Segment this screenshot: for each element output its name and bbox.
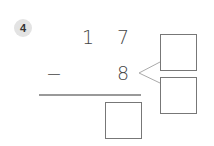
result-box[interactable] [105, 102, 142, 139]
decompose-top-box[interactable] [160, 34, 197, 71]
worksheet-problem: 4 1 7 − 8 [0, 0, 214, 146]
fork-line-bottom [139, 73, 160, 83]
decompose-bottom-box[interactable] [160, 77, 197, 114]
fork-line-top [139, 62, 160, 73]
